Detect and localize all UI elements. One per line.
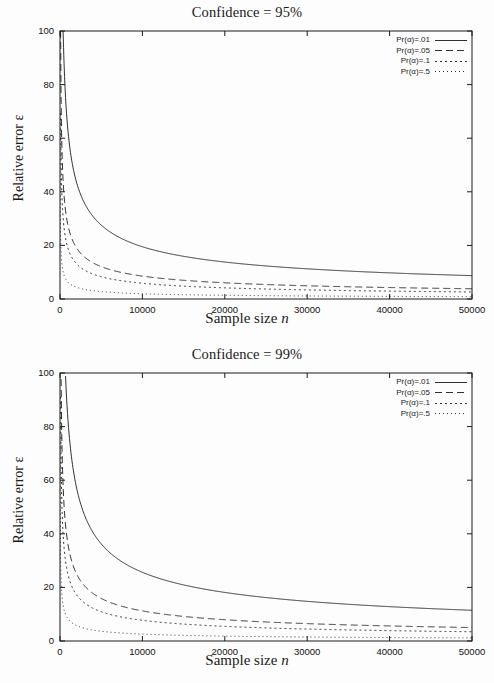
y-tick-label: 100 xyxy=(18,25,54,36)
y-tick-label: 60 xyxy=(18,132,54,143)
legend-entry-3: Pr(α)=.5 xyxy=(360,67,468,78)
legend-entry-1: Pr(α)=.05 xyxy=(360,388,468,399)
legend-label: Pr(α)=.1 xyxy=(401,56,430,67)
legend-entry-2: Pr(α)=.1 xyxy=(360,398,468,409)
curve-fine-dotted xyxy=(60,147,472,296)
curve-dotted xyxy=(61,113,472,292)
x-tick-label: 10000 xyxy=(112,304,172,315)
legend-entry-0: Pr(α)=.01 xyxy=(360,377,468,388)
y-axis-label-95: Relative error ε xyxy=(11,73,27,243)
y-tick-label: 60 xyxy=(18,474,54,485)
legend-entry-2: Pr(α)=.1 xyxy=(360,56,468,67)
x-tick-label: 50000 xyxy=(442,646,494,657)
legend-label: Pr(α)=.5 xyxy=(401,409,430,420)
y-tick-label: 40 xyxy=(18,186,54,197)
legend-99: Pr(α)=.01Pr(α)=.05Pr(α)=.1Pr(α)=.5 xyxy=(360,377,468,419)
figure-two-panel-chart: Confidence = 95% Relative error ε Sample… xyxy=(0,0,494,683)
curve-dotted xyxy=(61,397,472,632)
x-tick-label: 30000 xyxy=(277,646,337,657)
x-tick-label: 10000 xyxy=(112,646,172,657)
x-tick-label: 40000 xyxy=(360,646,420,657)
legend-line-sample-solid xyxy=(434,379,468,386)
legend-label: Pr(α)=.05 xyxy=(396,46,430,57)
plot-area-99: Relative error ε Sample size n Pr(α)=.01… xyxy=(0,342,494,683)
legend-entry-3: Pr(α)=.5 xyxy=(360,409,468,420)
legend-line-sample-dotted xyxy=(434,58,468,65)
x-tick-label: 20000 xyxy=(195,304,255,315)
chart-panel-95: Confidence = 95% Relative error ε Sample… xyxy=(0,0,494,341)
plot-area-95: Relative error ε Sample size n Pr(α)=.01… xyxy=(0,0,494,341)
y-tick-label: 0 xyxy=(18,293,54,304)
legend-95: Pr(α)=.01Pr(α)=.05Pr(α)=.1Pr(α)=.5 xyxy=(360,35,468,77)
curve-fine-dotted xyxy=(60,442,472,638)
legend-label: Pr(α)=.01 xyxy=(396,35,430,46)
y-tick-label: 80 xyxy=(18,421,54,432)
x-tick-label: 50000 xyxy=(442,304,494,315)
legend-label: Pr(α)=.05 xyxy=(396,388,430,399)
chart-panel-99: Confidence = 99% Relative error ε Sample… xyxy=(0,342,494,683)
legend-line-sample-dashed xyxy=(434,389,468,396)
y-tick-label: 20 xyxy=(18,239,54,250)
y-tick-label: 20 xyxy=(18,581,54,592)
y-axis-label-99: Relative error ε xyxy=(11,415,27,585)
x-tick-label: 40000 xyxy=(360,304,420,315)
x-tick-label: 30000 xyxy=(277,304,337,315)
x-tick-label: 20000 xyxy=(195,646,255,657)
legend-label: Pr(α)=.1 xyxy=(401,398,430,409)
y-tick-label: 80 xyxy=(18,79,54,90)
y-tick-label: 40 xyxy=(18,528,54,539)
legend-line-sample-dotted xyxy=(434,400,468,407)
legend-line-sample-dashed xyxy=(434,47,468,54)
legend-line-sample-fine-dotted xyxy=(434,68,468,75)
legend-entry-1: Pr(α)=.05 xyxy=(360,46,468,57)
legend-label: Pr(α)=.01 xyxy=(396,377,430,388)
y-tick-label: 0 xyxy=(18,635,54,646)
legend-line-sample-solid xyxy=(434,37,468,44)
x-tick-label: 0 xyxy=(30,304,90,315)
legend-line-sample-fine-dotted xyxy=(434,410,468,417)
y-tick-label: 100 xyxy=(18,367,54,378)
legend-label: Pr(α)=.5 xyxy=(401,67,430,78)
legend-entry-0: Pr(α)=.01 xyxy=(360,35,468,46)
x-tick-label: 0 xyxy=(30,646,90,657)
